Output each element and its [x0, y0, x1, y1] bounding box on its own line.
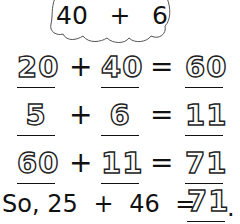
cloud-right-value: 6: [152, 2, 168, 30]
conclusion-addend-b: 46: [129, 190, 160, 218]
addend-b-blank: 11: [101, 146, 139, 186]
conclusion-plus: +: [93, 190, 113, 218]
result-blank: 11: [185, 98, 223, 138]
answer-line: [17, 135, 55, 136]
conclusion-addend-a: 25: [47, 190, 78, 218]
addend-b-blank: 6: [101, 98, 139, 138]
addend-b-blank: 40: [101, 50, 139, 90]
answer-line: [101, 135, 139, 136]
answer-line: [185, 135, 223, 136]
cloud-operator: +: [109, 2, 130, 30]
answer-line: [185, 87, 223, 88]
answer-line: [17, 87, 55, 88]
addend-a-blank: 5: [17, 98, 55, 138]
cloud-expression: 40 + 6: [56, 2, 168, 30]
equation-row-2: 5 + 6 = 11: [0, 98, 240, 142]
final-answer-blank: 71: [187, 184, 225, 224]
conclusion-prefix: So,: [2, 190, 40, 218]
equation-row-1: 20 + 40 = 60: [0, 50, 240, 94]
equals-sign: =: [150, 50, 173, 84]
plus-sign: +: [69, 98, 92, 132]
addend-a-blank: 60: [17, 146, 55, 186]
answer-line: [101, 183, 139, 184]
addend-a-blank: 20: [17, 50, 55, 90]
answer-line: [101, 87, 139, 88]
conclusion-sentence: So, 25 + 46 =: [2, 189, 195, 219]
equals-sign: =: [150, 146, 173, 180]
result-blank: 71: [185, 146, 223, 186]
period: .: [227, 193, 235, 223]
answer-line: [187, 221, 225, 222]
equals-sign: =: [150, 98, 173, 132]
cloud-left-value: 40: [56, 2, 88, 30]
answer-line: [17, 183, 55, 184]
plus-sign: +: [69, 50, 92, 84]
result-blank: 60: [185, 50, 223, 90]
plus-sign: +: [69, 146, 92, 180]
